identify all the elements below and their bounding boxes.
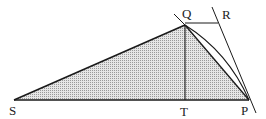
- label-Q: Q: [182, 6, 192, 21]
- label-S: S: [9, 103, 16, 118]
- label-T: T: [180, 104, 188, 119]
- shaded-triangle-SQP: [14, 25, 249, 100]
- label-R: R: [222, 7, 231, 22]
- label-P: P: [241, 103, 248, 118]
- geometry-diagram: S Q R T P: [0, 0, 266, 119]
